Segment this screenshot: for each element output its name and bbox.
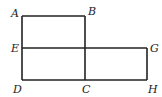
- label-b: B: [87, 5, 96, 18]
- label-c: C: [82, 83, 91, 96]
- label-d: D: [12, 83, 22, 96]
- label-a: A: [10, 7, 19, 20]
- geometry-diagram: A B E G D C H: [0, 0, 162, 97]
- label-h: H: [147, 83, 158, 96]
- label-g: G: [150, 42, 159, 55]
- label-e: E: [10, 42, 19, 55]
